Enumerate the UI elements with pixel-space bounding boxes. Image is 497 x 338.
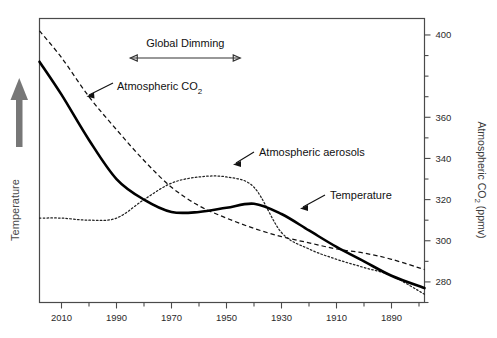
- chart-root: 2010199019701950193019101890 40036034032…: [0, 0, 497, 338]
- y-axis-tick-label: 300: [436, 235, 452, 246]
- temperature-axis-title: Temperature: [9, 179, 21, 241]
- chart-svg: 2010199019701950193019101890 40036034032…: [0, 0, 497, 338]
- x-axis-tick-label: 1970: [161, 312, 182, 323]
- y-axis-tick-label: 360: [436, 112, 452, 123]
- aerosols-callout-label: Atmospheric aerosols: [259, 146, 365, 158]
- x-axis-tick-label: 1910: [326, 312, 347, 323]
- y-axis-tick-label: 280: [436, 276, 452, 287]
- x-axis-tick-label: 1930: [271, 312, 292, 323]
- y-axis-tick-label: 340: [436, 153, 452, 164]
- y-axis-tick-label: 400: [436, 29, 452, 40]
- y-axis-tick-label: 320: [436, 194, 452, 205]
- global-dimming-label: Global Dimming: [146, 37, 224, 49]
- temperature-callout-label: Temperature: [330, 189, 392, 201]
- x-axis-tick-label: 1990: [106, 312, 127, 323]
- x-axis-tick-label: 1950: [216, 312, 237, 323]
- x-axis-tick-label: 1890: [381, 312, 402, 323]
- x-axis-tick-label: 2010: [51, 312, 72, 323]
